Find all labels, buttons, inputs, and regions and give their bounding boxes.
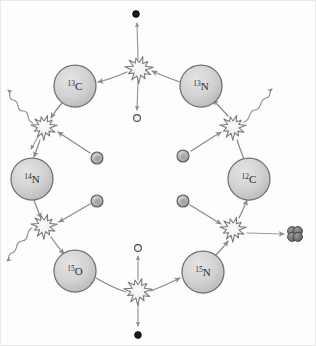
element-symbol: C [249,173,256,185]
nucleus-c13: 13C [54,65,96,107]
element-symbol: C [75,80,82,92]
arrow-n14-to-capture-ll [34,200,41,218]
arrow-positron-top [137,81,138,110]
element-symbol: O [75,265,83,277]
nucleus-n15: 15N [182,251,224,293]
element-symbol: N [203,266,211,278]
positron-bottom-icon [135,245,142,252]
o15-beta-plus-decay-starburst [124,279,153,306]
arrow-proton-lr-to-capture-lr [190,205,221,224]
arrow-alpha-emission [247,233,284,234]
c12-proton-capture-starburst [220,116,246,141]
proton-upper-left-icon [91,152,103,164]
nuclei-group: 13C13N14N12C15O15N [11,65,270,293]
nucleus-o15: 15O [54,250,96,292]
n14-proton-capture-starburst [31,215,57,240]
element-symbol: N [32,173,40,185]
arrow-neutrino-top [137,23,138,59]
arrow-n13-to-beta-top [152,71,180,82]
element-symbol: N [201,80,209,92]
nucleus-n14: 14N [11,158,53,200]
gamma-lower-left-icon [7,228,32,261]
n13-beta-plus-decay-starburst [125,57,154,84]
arrow-capture-lr-to-c12 [239,200,247,218]
n15-proton-capture-starburst [220,218,246,243]
gamma-upper-left-icon [8,90,33,123]
arrow-c13-to-capture-ul [51,103,62,118]
neutrino-bottom-icon [135,332,142,339]
arrow-c12-up-stub [237,140,244,159]
arrow-proton-ul-to-capture-ul [58,132,90,153]
arrow-capture-ur-to-n13 [213,100,228,116]
arrow-beta-bottom-to-n15 [151,278,180,291]
arrow-n15-to-capture-lr [214,241,228,257]
gamma-upper-right-icon [244,89,272,122]
c13-proton-capture-starburst [31,116,57,141]
nucleus-n13: 13N [180,65,222,107]
diagram-canvas: 13C13N14N12C15O15N [1,1,316,346]
arrow-beta-top-to-c13 [98,72,127,82]
proton-lower-left-icon [91,195,103,207]
proton-feed-arrows [58,132,221,224]
arrow-o15-to-beta-bottom [96,278,126,292]
nucleus-c12: 12C [228,158,270,200]
neutrino-top-icon [133,11,140,18]
arrow-proton-ur-to-capture-ur [191,132,221,151]
proton-upper-right-icon [177,150,189,162]
positron-top-icon [134,115,141,122]
alpha-particle-icon [288,227,303,242]
cno-cycle-diagram: 13C13N14N12C15O15N [0,0,316,346]
arrow-proton-ll-to-capture-ll [59,204,90,222]
proton-lower-right-icon [177,195,189,207]
arrow-capture-ll-to-o15 [51,237,64,254]
